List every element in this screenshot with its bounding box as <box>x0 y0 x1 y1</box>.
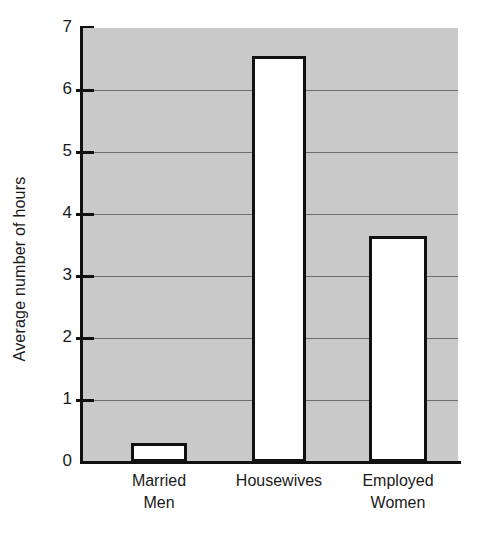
y-axis-title: Average number of hours <box>0 0 40 538</box>
bar <box>369 236 427 462</box>
y-axis-tick-mark <box>76 89 94 92</box>
y-axis-line <box>80 26 83 464</box>
y-axis-tick-mark <box>76 275 94 278</box>
y-axis-tick-mark <box>76 213 94 216</box>
y-axis-tick-label: 6 <box>50 79 72 99</box>
y-axis-tick-label: 7 <box>50 17 72 37</box>
y-axis-tick-mark <box>76 151 94 154</box>
bar-chart-figure: Average number of hours 01234567 Married… <box>0 0 502 538</box>
y-axis-tick-mark <box>76 399 94 402</box>
y-axis-top-tick <box>80 26 94 28</box>
y-axis-tick-label: 3 <box>50 265 72 285</box>
bar <box>131 443 187 462</box>
x-axis-tick-label: Employed Women <box>328 470 468 514</box>
bar <box>252 56 306 462</box>
y-axis-tick-label: 2 <box>50 327 72 347</box>
y-axis-tick-label: 1 <box>50 389 72 409</box>
x-axis-tick-label: Married Men <box>89 470 229 514</box>
y-axis-tick-label: 4 <box>50 203 72 223</box>
y-axis-tick-label: 0 <box>50 451 72 471</box>
y-axis-tick-label: 5 <box>50 141 72 161</box>
y-axis-tick-mark <box>76 337 94 340</box>
